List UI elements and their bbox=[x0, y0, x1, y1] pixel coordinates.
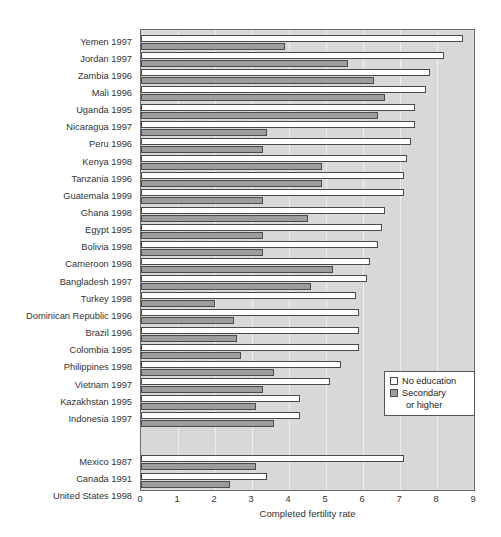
bar-secondary-or-higher bbox=[141, 77, 374, 84]
bar-group bbox=[141, 171, 474, 189]
category-label: Yemen 1997 bbox=[80, 37, 132, 47]
bar-secondary-or-higher bbox=[141, 300, 215, 307]
bar-no-education bbox=[141, 275, 367, 282]
gridline bbox=[474, 30, 475, 490]
bar-secondary-or-higher bbox=[141, 146, 263, 153]
bar-group bbox=[141, 103, 474, 121]
category-label: Philippines 1998 bbox=[64, 362, 132, 372]
category-label: Peru 1996 bbox=[89, 139, 132, 149]
legend-item-no-education: No education bbox=[390, 376, 469, 388]
category-label: Colombia 1995 bbox=[69, 345, 132, 355]
value-axis-ticks: 0123456789 bbox=[140, 491, 475, 503]
bar-no-education bbox=[141, 69, 430, 76]
legend-item-secondary-continuation: or higher bbox=[390, 400, 469, 412]
category-label: Ghana 1998 bbox=[81, 208, 132, 218]
bar-group bbox=[141, 120, 474, 138]
bar-no-education bbox=[141, 309, 359, 316]
bar-no-education bbox=[141, 378, 330, 385]
bar-secondary-or-higher bbox=[141, 232, 263, 239]
bar-secondary-or-higher bbox=[141, 94, 385, 101]
category-label: Canada 1991 bbox=[76, 474, 132, 484]
category-label: Vietnam 1997 bbox=[75, 380, 132, 390]
bar-no-education bbox=[141, 104, 415, 111]
category-label: Guatemala 1999 bbox=[63, 191, 132, 201]
bar-no-education bbox=[141, 138, 411, 145]
x-axis-tick-label: 0 bbox=[137, 494, 142, 504]
bar-secondary-or-higher bbox=[141, 335, 237, 342]
bar-secondary-or-higher bbox=[141, 249, 263, 256]
bar-no-education bbox=[141, 172, 404, 179]
bar-no-education bbox=[141, 292, 356, 299]
bar-group bbox=[141, 188, 474, 206]
x-axis-tick-label: 2 bbox=[211, 494, 216, 504]
bar-secondary-or-higher bbox=[141, 369, 274, 376]
legend-item-secondary: Secondary bbox=[390, 388, 469, 400]
x-axis-tick-label: 6 bbox=[359, 494, 364, 504]
bar-secondary-or-higher bbox=[141, 215, 308, 222]
category-label: United States 1998 bbox=[53, 491, 132, 501]
bar-secondary-or-higher bbox=[141, 129, 267, 136]
category-label: Dominican Republic 1996 bbox=[26, 311, 132, 321]
bar-no-education bbox=[141, 224, 382, 231]
bar-secondary-or-higher bbox=[141, 60, 348, 67]
bar-group bbox=[141, 472, 474, 490]
category-label: Mali 1996 bbox=[92, 88, 132, 98]
bar-no-education bbox=[141, 361, 341, 368]
bar-no-education bbox=[141, 86, 426, 93]
bar-group bbox=[141, 454, 474, 472]
bar-group bbox=[141, 137, 474, 155]
bar-group bbox=[141, 291, 474, 309]
bar-group bbox=[141, 68, 474, 86]
bar-group bbox=[141, 343, 474, 361]
category-label: Indonesia 1997 bbox=[68, 414, 132, 424]
bar-group bbox=[141, 154, 474, 172]
category-label: Egypt 1995 bbox=[85, 225, 132, 235]
bar-no-education bbox=[141, 241, 378, 248]
bar-group bbox=[141, 257, 474, 275]
bar-secondary-or-higher bbox=[141, 163, 322, 170]
bar-group bbox=[141, 240, 474, 258]
bar-group bbox=[141, 51, 474, 69]
bar-secondary-or-higher bbox=[141, 403, 256, 410]
category-label: Tanzania 1996 bbox=[72, 174, 132, 184]
category-label: Kenya 1998 bbox=[82, 157, 132, 167]
category-label: Mexico 1987 bbox=[79, 457, 132, 467]
category-label: Cameroon 1998 bbox=[65, 259, 132, 269]
bar-no-education bbox=[141, 207, 385, 214]
x-axis-tick-label: 4 bbox=[285, 494, 290, 504]
bar-no-education bbox=[141, 155, 407, 162]
bar-secondary-or-higher bbox=[141, 283, 311, 290]
bar-no-education bbox=[141, 52, 444, 59]
bar-secondary-or-higher bbox=[141, 112, 378, 119]
category-label: Bolivia 1998 bbox=[81, 242, 132, 252]
bar-secondary-or-higher bbox=[141, 352, 241, 359]
x-axis-tick-label: 9 bbox=[470, 494, 475, 504]
plot-area bbox=[140, 29, 475, 491]
bar-secondary-or-higher bbox=[141, 43, 285, 50]
legend-label-no-education: No education bbox=[402, 376, 456, 387]
category-label: Jordan 1997 bbox=[80, 54, 132, 64]
bar-no-education bbox=[141, 412, 300, 419]
bar-group bbox=[141, 206, 474, 224]
fertility-rate-bar-chart: Yemen 1997Jordan 1997Zambia 1996Mali 199… bbox=[0, 0, 501, 537]
bar-group bbox=[141, 34, 474, 52]
x-axis-tick-label: 1 bbox=[174, 494, 179, 504]
bar-secondary-or-higher bbox=[141, 266, 333, 273]
category-label: Bangladesh 1997 bbox=[60, 277, 132, 287]
bar-no-education bbox=[141, 35, 463, 42]
bar-no-education bbox=[141, 455, 404, 462]
bar-no-education bbox=[141, 258, 370, 265]
bar-secondary-or-higher bbox=[141, 386, 263, 393]
legend-label-secondary-continuation: or higher bbox=[406, 400, 442, 411]
bar-secondary-or-higher bbox=[141, 481, 230, 488]
category-label: Turkey 1998 bbox=[81, 294, 132, 304]
bar-group bbox=[141, 326, 474, 344]
x-axis-tick-label: 5 bbox=[322, 494, 327, 504]
bar-group bbox=[141, 274, 474, 292]
bar-no-education bbox=[141, 121, 415, 128]
bar-no-education bbox=[141, 189, 404, 196]
bar-secondary-or-higher bbox=[141, 420, 274, 427]
x-axis-tick-label: 8 bbox=[433, 494, 438, 504]
category-label: Kazakhstan 1995 bbox=[60, 397, 132, 407]
bar-no-education bbox=[141, 395, 300, 402]
